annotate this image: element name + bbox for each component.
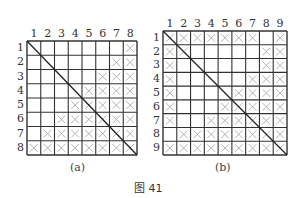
x-mark-icon [276,117,284,125]
x-mark-icon [113,59,121,67]
row-label: 3 [16,71,25,82]
x-mark-icon [276,34,284,42]
x-mark-icon [126,73,134,81]
x-mark-icon [180,130,188,138]
x-mark-icon [221,117,229,125]
x-mark-icon [235,89,243,97]
x-mark-icon [58,116,66,124]
row-label: 1 [16,42,25,53]
row-label: 6 [152,101,161,112]
x-mark-icon [194,34,202,42]
x-mark-icon [71,116,79,124]
column-label: 9 [275,18,285,29]
column-label: 1 [165,18,175,29]
x-mark-icon [166,75,174,83]
column-label: 1 [29,28,39,39]
x-mark-icon [113,73,121,81]
x-mark-icon [180,34,188,42]
x-mark-icon [207,34,215,42]
column-label: 4 [70,28,80,39]
x-mark-icon [126,101,134,109]
x-mark-icon [249,75,257,83]
x-mark-icon [262,103,270,111]
column-label: 3 [56,28,66,39]
row-label: 7 [152,115,161,126]
row-label: 7 [16,128,25,139]
x-mark-icon [262,117,270,125]
row-label: 2 [16,56,25,67]
x-mark-icon [276,103,284,111]
x-mark-icon [221,130,229,138]
x-mark-icon [30,144,38,152]
x-mark-icon [221,34,229,42]
x-mark-icon [71,130,79,138]
column-label: 6 [234,18,244,29]
row-label: 8 [16,142,25,153]
x-mark-icon [276,48,284,56]
figure-41: 1234567812345678 123456789123456789 (a) … [0,0,303,198]
row-label: 5 [152,87,161,98]
x-mark-icon [194,144,202,152]
x-mark-icon [276,62,284,70]
x-mark-icon [221,144,229,152]
x-mark-icon [71,144,79,152]
x-mark-icon [235,34,243,42]
column-label: 8 [261,18,271,29]
x-mark-icon [207,117,215,125]
x-mark-icon [113,101,121,109]
x-mark-icon [276,89,284,97]
x-mark-icon [85,130,93,138]
x-mark-icon [85,144,93,152]
x-mark-icon [99,87,107,95]
x-mark-icon [44,130,52,138]
x-mark-icon [262,48,270,56]
column-label: 5 [84,28,94,39]
x-mark-icon [180,144,188,152]
grid-panel-b [163,31,287,155]
x-mark-icon [207,144,215,152]
x-mark-icon [166,89,174,97]
x-mark-icon [99,101,107,109]
x-mark-icon [126,87,134,95]
column-label: 5 [220,18,230,29]
row-label: 4 [16,85,25,96]
x-mark-icon [249,103,257,111]
x-mark-icon [235,130,243,138]
x-mark-icon [99,73,107,81]
x-mark-icon [99,144,107,152]
column-label: 6 [98,28,108,39]
row-label: 9 [152,142,161,153]
x-mark-icon [262,62,270,70]
x-mark-icon [113,144,121,152]
row-label: 1 [152,32,161,43]
x-mark-icon [113,116,121,124]
column-label: 8 [125,28,135,39]
column-label: 2 [179,18,189,29]
column-label: 7 [248,18,258,29]
x-mark-icon [44,144,52,152]
column-label: 2 [43,28,53,39]
row-label: 3 [152,59,161,70]
x-mark-icon [166,48,174,56]
x-mark-icon [99,130,107,138]
x-mark-icon [276,75,284,83]
column-label: 3 [192,18,202,29]
x-mark-icon [262,89,270,97]
figure-caption: 图 41 [134,179,163,195]
x-mark-icon [249,144,257,152]
x-mark-icon [71,101,79,109]
x-mark-icon [166,117,174,125]
x-mark-icon [126,44,134,52]
x-mark-icon [113,87,121,95]
x-mark-icon [126,130,134,138]
row-label: 2 [152,46,161,57]
x-mark-icon [249,34,257,42]
row-label: 8 [152,128,161,139]
x-mark-icon [194,130,202,138]
x-mark-icon [262,75,270,83]
x-mark-icon [235,144,243,152]
panel-a-caption: (a) [70,161,85,174]
x-mark-icon [262,144,270,152]
row-label: 4 [152,73,161,84]
grid-panel-a [27,41,137,155]
